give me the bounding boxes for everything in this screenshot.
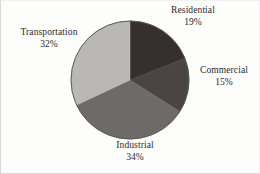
slice-label-commercial-name: Commercial: [187, 65, 260, 77]
pie-chart-figure: Residential 19% Commercial 15% Industria…: [0, 0, 260, 174]
slice-label-commercial-percent: 15%: [187, 77, 260, 89]
slice-label-industrial-percent: 34%: [93, 152, 177, 164]
slice-label-transportation: Transportation 32%: [3, 27, 95, 50]
slice-label-residential: Residential 19%: [149, 5, 237, 28]
slice-label-transportation-name: Transportation: [3, 27, 95, 39]
slice-label-industrial-name: Industrial: [93, 140, 177, 152]
slice-label-commercial: Commercial 15%: [187, 65, 260, 88]
slice-label-industrial: Industrial 34%: [93, 140, 177, 163]
slice-label-residential-percent: 19%: [149, 17, 237, 29]
slice-label-transportation-percent: 32%: [3, 39, 95, 51]
slice-label-residential-name: Residential: [149, 5, 237, 17]
